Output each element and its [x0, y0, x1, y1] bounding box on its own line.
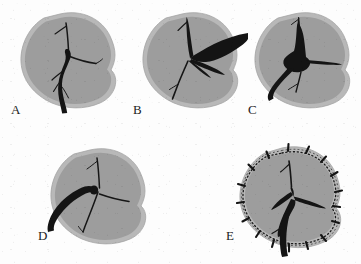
panel-b-illustration — [132, 8, 248, 116]
suture-tick — [288, 144, 289, 151]
figure-root: A B — [0, 0, 361, 264]
panel-b: B — [132, 8, 248, 116]
panel-d-illustration — [40, 144, 156, 252]
panel-label-a: A — [11, 103, 21, 116]
panel-c: C — [244, 8, 360, 116]
panel-a: A — [10, 8, 126, 116]
vessel-stump-tip-d — [90, 185, 98, 194]
panel-a-illustration — [10, 8, 126, 116]
panel-e-illustration — [228, 142, 353, 257]
panel-e: E — [228, 142, 353, 257]
panel-label-d: D — [38, 229, 48, 242]
suture-tick — [237, 202, 244, 203]
suture-tick — [333, 206, 340, 207]
panel-c-illustration — [244, 8, 360, 116]
panel-label-c: C — [248, 103, 257, 116]
suture-tick — [335, 191, 342, 193]
panel-label-b: B — [133, 103, 142, 116]
panel-d: D — [40, 144, 156, 252]
panel-label-e: E — [226, 229, 234, 242]
